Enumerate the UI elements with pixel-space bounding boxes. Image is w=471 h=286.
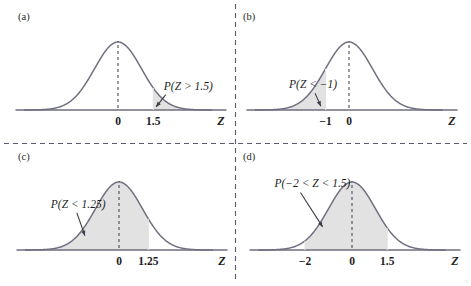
tick-label-d-0: −2 <box>299 255 312 267</box>
panel-label-a: (a) <box>18 11 30 23</box>
shaded-region-d <box>305 182 387 250</box>
tick-label-d-2: 1.5 <box>380 255 395 267</box>
probability-label-b: P(Z < −1) <box>288 78 337 91</box>
panel-b: (b)−10ZP(Z < −1) <box>243 11 457 128</box>
panel-label-d: (d) <box>243 151 256 163</box>
axis-name-d: Z <box>450 254 459 268</box>
tick-label-d-1: 0 <box>349 255 355 267</box>
axis-name-b: Z <box>447 114 456 128</box>
normal-distribution-figure: (a)01.5ZP(Z > 1.5)(b)−10ZP(Z < −1)(c)01.… <box>0 0 471 286</box>
tick-label-a-0: 0 <box>115 115 121 127</box>
shaded-region-c <box>25 182 148 250</box>
axis-name-c: Z <box>217 254 226 268</box>
probability-label-c: P(Z < 1.25) <box>50 198 106 211</box>
probability-label-a: P(Z > 1.5) <box>163 80 213 93</box>
panel-label-c: (c) <box>18 151 30 163</box>
tick-label-c-1: 1.25 <box>138 255 158 267</box>
panel-c: (c)01.25ZP(Z < 1.25) <box>17 151 227 268</box>
axis-name-a: Z <box>216 114 225 128</box>
panel-d: (d)−201.5ZP(−2 < Z < 1.5) <box>243 151 460 268</box>
tick-label-c-0: 0 <box>116 255 122 267</box>
pointer-arrow-d <box>300 192 322 226</box>
probability-label-d: P(−2 < Z < 1.5) <box>273 177 350 190</box>
figure-canvas: (a)01.5ZP(Z > 1.5)(b)−10ZP(Z < −1)(c)01.… <box>0 0 471 286</box>
tick-label-b-0: −1 <box>319 115 332 127</box>
tick-label-a-1: 1.5 <box>146 115 161 127</box>
corner-artifact: □ <box>465 279 468 284</box>
tick-label-b-1: 0 <box>346 115 352 127</box>
panel-a: (a)01.5ZP(Z > 1.5) <box>16 11 226 128</box>
panel-label-b: (b) <box>243 11 256 23</box>
